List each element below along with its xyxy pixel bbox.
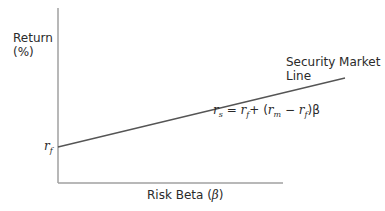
y-axis-label-line1: Return bbox=[13, 31, 53, 45]
beta-symbol: β bbox=[212, 188, 219, 202]
rf-subscript: f bbox=[50, 146, 53, 155]
x-axis-label-text: Risk Beta ( bbox=[147, 188, 212, 202]
eq-equals: = bbox=[223, 103, 241, 117]
sml-equation: rs = rf+ (rm − rf)β bbox=[213, 103, 320, 122]
sml-label-line1: Security Market bbox=[286, 55, 380, 69]
eq-minus: − bbox=[281, 103, 299, 117]
y-axis-label-line2: (%) bbox=[13, 45, 53, 59]
sml-label-line2: Line bbox=[286, 69, 380, 83]
eq-plus-open: + ( bbox=[249, 103, 268, 117]
x-axis-label: Risk Beta (β) bbox=[147, 188, 223, 202]
eq-close-beta: )β bbox=[308, 103, 320, 117]
chart-canvas bbox=[0, 0, 385, 211]
y-axis-label: Return (%) bbox=[13, 31, 53, 59]
x-axis-label-close: ) bbox=[219, 188, 224, 202]
rf-intercept-label: rf bbox=[44, 139, 53, 158]
sml-label: Security Market Line bbox=[286, 55, 380, 83]
